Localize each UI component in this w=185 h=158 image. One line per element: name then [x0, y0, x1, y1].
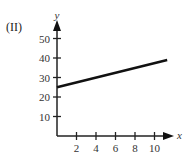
y-tick-label: 40 — [39, 52, 51, 64]
y-axis-arrow-icon — [53, 20, 61, 31]
x-axis: x — [57, 129, 182, 141]
y-axis-label: y — [54, 9, 60, 21]
x-axis-label: x — [176, 129, 182, 141]
x-tick-label: 8 — [132, 142, 138, 154]
x-tick-label: 10 — [149, 142, 161, 154]
x-tick-label: 2 — [74, 142, 80, 154]
x-tick-label: 6 — [113, 142, 119, 154]
x-tick-label: 4 — [93, 142, 99, 154]
chart: y x 1020304050 246810 — [0, 0, 185, 158]
y-tick-label: 30 — [39, 72, 51, 84]
y-tick-label: 10 — [39, 111, 51, 123]
x-axis-arrow-icon — [163, 132, 174, 140]
y-tick-label: 50 — [39, 33, 51, 45]
y-tick-label: 20 — [39, 91, 51, 103]
data-line — [57, 60, 167, 87]
